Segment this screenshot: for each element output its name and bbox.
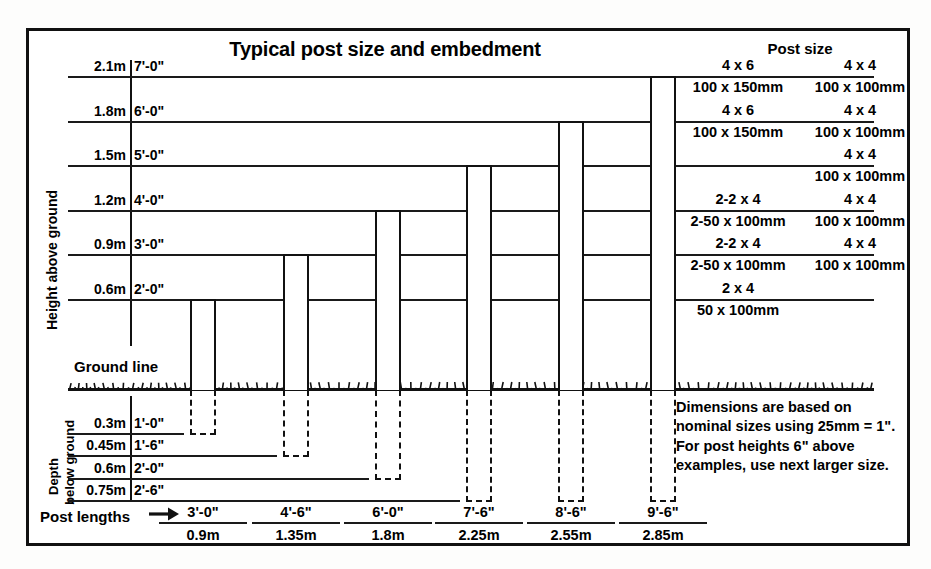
post-embedment-5 <box>558 390 584 502</box>
post-size-rule-5 <box>676 299 874 301</box>
post-size-metric-a-0: 100 x 150mm <box>676 79 800 96</box>
right-arrow-icon <box>148 505 182 523</box>
post-size-rule-0 <box>676 76 874 78</box>
gridline-below-0.75m <box>68 500 460 502</box>
post-length-imperial-6: 9'-6" <box>619 503 707 521</box>
post-size-metric-a-4: 2-50 x 100mm <box>676 257 800 274</box>
depth-metric-0.45m: 0.45m <box>66 436 126 454</box>
post-size-rule-2 <box>676 165 874 167</box>
post-size-metric-b-3: 100 x 100mm <box>800 213 920 230</box>
post-size-imperial-a-1: 4 x 6 <box>676 102 800 119</box>
post-length-metric-3: 1.8m <box>344 526 432 544</box>
post-length-rule-4 <box>435 522 523 524</box>
post-size-metric-b-1: 100 x 100mm <box>800 124 920 141</box>
post-embedment-2 <box>283 390 309 457</box>
axis-caption-height: Height above ground <box>44 190 60 330</box>
depth-metric-0.6m: 0.6m <box>66 459 126 477</box>
post-length-metric-4: 2.25m <box>435 526 523 544</box>
post-embedment-1 <box>190 390 216 435</box>
scale-imperial-3: 4'-0" <box>134 191 190 209</box>
post-length-imperial-5: 8'-6" <box>527 503 615 521</box>
post-size-metric-a-3: 2-50 x 100mm <box>676 213 800 230</box>
post-size-imperial-b-3: 4 x 4 <box>800 191 920 208</box>
diagram-root: Typical post size and embedment Post siz… <box>0 0 931 569</box>
scale-imperial-5: 2'-0" <box>134 280 190 298</box>
post-size-rule-1 <box>676 121 874 123</box>
depth-imperial-1: 1'-6" <box>134 436 190 454</box>
post-size-metric-a-1: 100 x 150mm <box>676 124 800 141</box>
post-size-imperial-b-0: 4 x 4 <box>800 57 920 74</box>
post-length-imperial-2: 4'-6" <box>252 503 340 521</box>
post-bar-6 <box>650 76 676 390</box>
post-size-imperial-b-1: 4 x 4 <box>800 102 920 119</box>
scale-column-divider-upper <box>130 60 132 346</box>
post-bar-3 <box>375 210 401 390</box>
post-embedment-4 <box>466 390 492 502</box>
post-size-metric-b-4: 100 x 100mm <box>800 257 920 274</box>
note-text: Dimensions are based on nominal sizes us… <box>676 398 908 476</box>
depth-imperial-3: 2'-6" <box>134 481 190 499</box>
scale-imperial-0: 7'-0" <box>134 57 190 75</box>
gridline-below-0.6m <box>68 478 369 480</box>
depth-imperial-0: 1'-0" <box>134 414 190 432</box>
post-length-metric-5: 2.55m <box>527 526 615 544</box>
scale-metric-1.2m: 1.2m <box>70 191 126 209</box>
post-size-imperial-a-3: 2-2 x 4 <box>676 191 800 208</box>
post-bar-4 <box>466 165 492 390</box>
scale-metric-1.8m: 1.8m <box>70 102 126 120</box>
scale-imperial-2: 5'-0" <box>134 146 190 164</box>
post-length-metric-2: 1.35m <box>252 526 340 544</box>
gridline-below-0.45m <box>68 455 277 457</box>
post-length-rule-5 <box>527 522 615 524</box>
page-title: Typical post size and embedment <box>190 38 580 61</box>
post-bar-2 <box>283 254 309 390</box>
post-embedment-3 <box>375 390 401 480</box>
scale-metric-0.6m: 0.6m <box>70 280 126 298</box>
post-size-rule-4 <box>676 254 874 256</box>
scale-imperial-1: 6'-0" <box>134 102 190 120</box>
post-size-imperial-a-0: 4 x 6 <box>676 57 800 74</box>
post-size-metric-b-2: 100 x 100mm <box>800 168 920 185</box>
post-size-imperial-a-4: 2-2 x 4 <box>676 235 800 252</box>
post-lengths-label: Post lengths <box>40 508 130 525</box>
scale-metric-2.1m: 2.1m <box>70 57 126 75</box>
gridline-below-0.3m <box>68 433 184 435</box>
axis-caption-depth-line1: Depth <box>46 458 61 495</box>
post-size-imperial-b-2: 4 x 4 <box>800 146 920 163</box>
scale-metric-0.9m: 0.9m <box>70 235 126 253</box>
post-length-rule-3 <box>344 522 432 524</box>
post-size-rule-3 <box>676 210 874 212</box>
post-size-header: Post size <box>700 40 900 57</box>
ground-line-label: Ground line <box>74 358 158 375</box>
post-bar-1 <box>190 299 216 390</box>
post-length-metric-6: 2.85m <box>619 526 707 544</box>
depth-imperial-2: 2'-0" <box>134 459 190 477</box>
post-length-rule-6 <box>619 522 707 524</box>
post-size-metric-b-0: 100 x 100mm <box>800 79 920 96</box>
post-size-imperial-a-5: 2 x 4 <box>676 280 800 297</box>
scale-column-divider-lower <box>130 396 132 500</box>
post-size-metric-a-5: 50 x 100mm <box>676 302 800 319</box>
depth-metric-0.3m: 0.3m <box>66 414 126 432</box>
post-embedment-6 <box>650 390 676 502</box>
post-length-imperial-3: 6'-0" <box>344 503 432 521</box>
scale-imperial-4: 3'-0" <box>134 235 190 253</box>
depth-metric-0.75m: 0.75m <box>66 481 126 499</box>
post-length-imperial-4: 7'-6" <box>435 503 523 521</box>
scale-metric-1.5m: 1.5m <box>70 146 126 164</box>
post-bar-5 <box>558 121 584 390</box>
post-size-imperial-b-4: 4 x 4 <box>800 235 920 252</box>
post-length-rule-2 <box>252 522 340 524</box>
post-length-metric-1: 0.9m <box>159 526 247 544</box>
